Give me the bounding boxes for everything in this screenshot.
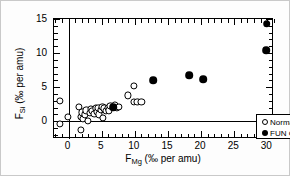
data-point-normal-cai <box>130 82 137 89</box>
legend-filled-circle-icon <box>260 130 270 137</box>
data-point-normal-cai <box>124 92 131 99</box>
data-point-fun-cai <box>199 75 207 83</box>
scatter-plot-figure: FSi (‰ per amu) FMg (‰ per amu) Normal C… <box>0 0 290 176</box>
data-point-normal-cai <box>56 120 63 127</box>
data-point-normal-cai <box>84 118 91 125</box>
y-axis-title-subscript: Si <box>18 107 27 114</box>
data-point-normal-cai <box>77 127 84 134</box>
x-tick-label: 25 <box>228 140 239 151</box>
data-point-normal-cai <box>138 99 145 106</box>
y-tick-label: 10 <box>3 47 47 58</box>
x-axis-title: FMg (‰ per amu) <box>53 153 273 164</box>
y-tick-label: 15 <box>3 13 47 24</box>
data-point-normal-cai <box>56 97 63 104</box>
data-point-fun-cai <box>263 20 271 28</box>
x-tick-label: 5 <box>98 140 104 151</box>
x-minor-tick-top <box>274 19 275 23</box>
legend-entry-label: Normal CAIs <box>270 118 290 127</box>
x-tick-label: 0 <box>65 140 71 151</box>
x-tick-label: 20 <box>195 140 206 151</box>
data-point-fun-cai <box>150 77 158 85</box>
data-point-fun-cai <box>185 71 193 79</box>
data-point-normal-cai <box>64 113 71 120</box>
legend-entry: FUN CAIs <box>260 128 290 138</box>
x-tick-label: 30 <box>261 140 272 151</box>
legend-entry-label: FUN CAIs <box>270 129 290 138</box>
x-axis-title-subscript: Mg <box>131 157 141 166</box>
x-tick-label: 10 <box>128 140 139 151</box>
chart-legend: Normal CAIsFUN CAIs <box>256 114 290 139</box>
y-tick-label: 0 <box>3 115 47 126</box>
y-tick-label: 5 <box>3 81 47 92</box>
plot-area: Normal CAIsFUN CAIs <box>53 18 273 138</box>
x-axis-title-units: (‰ per amu) <box>142 153 201 164</box>
data-point-fun-cai <box>262 47 270 55</box>
legend-entry: Normal CAIs <box>260 117 290 127</box>
x-tick-label: 15 <box>161 140 172 151</box>
legend-open-circle-icon <box>260 119 270 125</box>
data-point-fun-cai <box>109 103 117 111</box>
data-point-normal-cai <box>99 114 106 121</box>
data-points-layer <box>54 19 272 137</box>
